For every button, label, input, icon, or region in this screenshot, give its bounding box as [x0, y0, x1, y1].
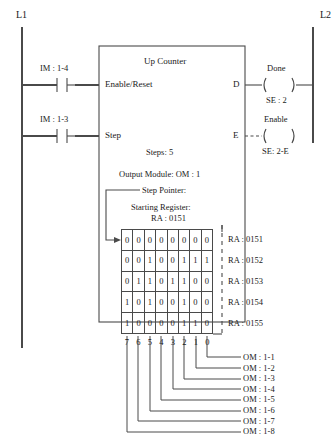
block-param-steps: Steps: 5	[146, 148, 173, 157]
bit-cell[interactable]: 0	[168, 313, 179, 334]
right-rail-label: L2	[320, 10, 331, 20]
block-param-step-pointer: Step Pointer:	[142, 186, 186, 195]
register-label: RA : 0153	[228, 271, 263, 292]
done-coil-right-paren	[292, 78, 294, 92]
output-module-label: OM : 1-5	[243, 394, 275, 405]
output-module-label: OM : 1-4	[243, 384, 275, 395]
bit-7-leader	[127, 336, 241, 432]
bit-cell[interactable]: 1	[168, 272, 179, 293]
block-input-step: Step	[105, 131, 121, 140]
bit-position-label: 7	[121, 336, 133, 348]
bit-cell[interactable]: 0	[168, 251, 179, 272]
bit-cell[interactable]: 1	[190, 251, 201, 272]
left-rail-label: L1	[16, 10, 27, 20]
bit-cell[interactable]: 0	[202, 272, 213, 293]
output-module-label: OM : 1-2	[243, 363, 275, 374]
block-param-output-module: Output Module: OM : 1	[119, 170, 200, 179]
contact-label-im-1-3[interactable]: IM : 1-3	[40, 115, 68, 124]
bit-position-label: 2	[179, 336, 191, 348]
bit-cell[interactable]: 1	[145, 292, 156, 313]
output-module-label: OM : 1-3	[243, 373, 275, 384]
bit-cell[interactable]: 0	[202, 230, 213, 251]
step-pointer-arrowhead	[114, 237, 121, 243]
bit-cell[interactable]: 1	[145, 272, 156, 293]
coil-label-done: Done	[267, 64, 285, 73]
bit-cell[interactable]: 1	[202, 251, 213, 272]
block-param-starting-register: Starting Register:	[131, 203, 191, 212]
bit-cell[interactable]: 1	[190, 313, 201, 334]
bit-cell[interactable]: 0	[156, 230, 167, 251]
bit-cell[interactable]: 1	[122, 313, 133, 334]
bit-cell[interactable]: 0	[133, 230, 144, 251]
enable-coil-right-paren	[292, 129, 294, 143]
enable-coil-left-paren	[264, 129, 266, 143]
bit-cell[interactable]: 0	[190, 272, 201, 293]
bit-position-label: 6	[133, 336, 145, 348]
bit-cell[interactable]: 0	[133, 251, 144, 272]
bit-cell[interactable]: 1	[179, 272, 190, 293]
output-module-label: OM : 1-8	[243, 426, 275, 437]
bit-cell[interactable]: 1	[122, 292, 133, 313]
bit-position-label: 0	[202, 336, 214, 348]
bit-cell[interactable]: 0	[145, 313, 156, 334]
block-output-d: D	[233, 80, 240, 89]
bit-cell[interactable]: 0	[133, 292, 144, 313]
bit-position-row: 76543210	[121, 336, 213, 348]
bit-position-label: 5	[144, 336, 156, 348]
bit-6-leader	[138, 336, 241, 421]
bit-position-label: 3	[167, 336, 179, 348]
register-label-list: RA : 0151RA : 0152RA : 0153RA : 0154RA :…	[228, 229, 263, 334]
bit-cell[interactable]: 0	[145, 230, 156, 251]
bit-cell[interactable]: 0	[168, 230, 179, 251]
bit-cell[interactable]: 0	[168, 292, 179, 313]
bit-cell[interactable]: 0	[156, 313, 167, 334]
block-input-enable-reset: Enable/Reset	[105, 80, 152, 89]
bit-cell[interactable]: 0	[133, 313, 144, 334]
bit-cell[interactable]: 1	[179, 251, 190, 272]
output-module-label: OM : 1-7	[243, 416, 275, 427]
bit-cell[interactable]: 0	[156, 292, 167, 313]
bit-cell[interactable]: 0	[156, 272, 167, 293]
coil-label-enable: Enable	[264, 115, 288, 124]
bit-cell[interactable]: 0	[122, 230, 133, 251]
block-output-e: E	[233, 131, 239, 140]
bit-cell[interactable]: 0	[190, 292, 201, 313]
register-label: RA : 0155	[228, 313, 263, 334]
register-label: RA : 0152	[228, 250, 263, 271]
bit-cell[interactable]: 0	[202, 292, 213, 313]
bit-cell[interactable]: 0	[202, 313, 213, 334]
bit-cell[interactable]: 0	[122, 272, 133, 293]
block-param-starting-register-value: RA : 0151	[151, 214, 186, 223]
bit-cell[interactable]: 0	[156, 251, 167, 272]
bit-cell[interactable]: 1	[179, 292, 190, 313]
register-bit-matrix: 0000000000100111011011001010010010000110	[121, 229, 213, 334]
bit-position-label: 1	[190, 336, 202, 348]
output-module-label-list: OM : 1-1OM : 1-2OM : 1-3OM : 1-4OM : 1-5…	[243, 352, 275, 437]
bit-cell[interactable]: 1	[145, 251, 156, 272]
bit-cell[interactable]: 0	[179, 230, 190, 251]
register-label: RA : 0151	[228, 229, 263, 250]
block-title: Up Counter	[144, 57, 186, 66]
bit-cell[interactable]: 1	[179, 313, 190, 334]
bit-cell[interactable]: 1	[133, 272, 144, 293]
bit-position-label: 4	[156, 336, 168, 348]
contact-label-im-1-4[interactable]: IM : 1-4	[40, 64, 68, 73]
output-module-label: OM : 1-6	[243, 405, 275, 416]
bit-cell[interactable]: 0	[122, 251, 133, 272]
coil-address-enable: SE: 2-E	[262, 147, 289, 156]
register-label: RA : 0154	[228, 292, 263, 313]
bit-cell[interactable]: 0	[190, 230, 201, 251]
ladder-diagram-canvas: L1 L2 IM : 1-4 IM : 1-3 Up Counter Enabl…	[0, 0, 335, 444]
output-module-label: OM : 1-1	[243, 352, 275, 363]
done-coil-left-paren	[264, 78, 266, 92]
coil-address-done: SE : 2	[266, 96, 287, 105]
